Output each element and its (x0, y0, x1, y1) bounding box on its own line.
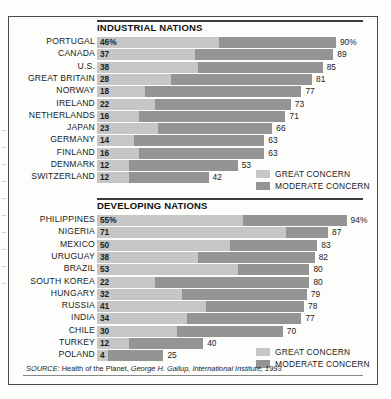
stacked-bar: 32 (97, 289, 307, 300)
table-row: JAPAN2366 (9, 123, 377, 134)
country-label: URUGUAY (0, 251, 95, 261)
bar-segment-great-concern (97, 264, 238, 275)
stacked-bar: 14 (97, 135, 264, 146)
bar-total-value: 90% (340, 37, 357, 48)
country-label: GREAT BRITAIN (0, 73, 95, 83)
bar-segment-moderate-concern (158, 123, 272, 134)
bar-start-value: 38 (100, 63, 109, 72)
country-label: IRELAND (0, 98, 95, 108)
developing-panel-title: DEVELOPING NATIONS (97, 200, 208, 211)
bar-total-value: 78 (308, 301, 317, 312)
bar-segment-moderate-concern (195, 49, 333, 60)
bar-segment-great-concern (97, 240, 230, 251)
bar-start-value: 71 (100, 228, 109, 237)
country-label: DENMARK (0, 159, 95, 169)
bar-total-value: 80 (313, 277, 322, 288)
stacked-bar: 18 (97, 86, 301, 97)
country-label: MEXICO (0, 239, 95, 249)
stacked-bar: 55% (97, 215, 347, 226)
bar-total-value: 89 (337, 49, 346, 60)
bar-total-value: 25 (167, 350, 176, 361)
bar-segment-great-concern (97, 289, 182, 300)
stacked-bar: 41 (97, 301, 304, 312)
developing-nations-panel: PHILIPPINES55%94%NIGERIA7187MEXICO5083UR… (9, 215, 377, 365)
bar-start-value: 30 (100, 327, 109, 336)
stacked-bar: 37 (97, 49, 333, 60)
stacked-bar: 53 (97, 264, 309, 275)
bar-total-value: 66 (276, 123, 285, 134)
stacked-bar: 12 (97, 338, 203, 349)
bar-total-value: 40 (207, 338, 216, 349)
bar-segment-moderate-concern (286, 227, 328, 238)
legend-item-great-concern: GREAT CONCERN (256, 346, 370, 358)
bar-segment-moderate-concern (139, 111, 285, 122)
country-label: BRAZIL (0, 263, 95, 273)
legend-label-great-concern: GREAT CONCERN (275, 169, 350, 179)
bar-segment-moderate-concern (155, 99, 290, 110)
bar-total-value: 79 (311, 289, 320, 300)
stacked-bar: 12 (97, 172, 209, 183)
bar-segment-moderate-concern (129, 172, 209, 183)
bar-segment-moderate-concern (129, 338, 203, 349)
country-label: SOUTH KOREA (0, 276, 95, 286)
bar-start-value: 14 (100, 136, 109, 145)
table-row: HUNGARY3279 (9, 289, 377, 300)
bar-total-value: 73 (295, 99, 304, 110)
legend-industrial: GREAT CONCERN MODERATE CONCERN (256, 168, 370, 192)
bar-segment-moderate-concern (206, 301, 304, 312)
table-row: BRAZIL5380 (9, 264, 377, 275)
country-label: PHILIPPINES (0, 214, 95, 224)
bar-segment-great-concern (97, 252, 198, 263)
bar-start-value: 22 (100, 278, 109, 287)
legend-swatch-great-concern (256, 348, 270, 356)
bar-total-value: 81 (316, 74, 325, 85)
table-row: PORTUGAL46%90% (9, 37, 377, 48)
country-label: U.S. (0, 61, 95, 71)
bar-start-value: 12 (100, 161, 109, 170)
stacked-bar: 16 (97, 111, 286, 122)
bar-start-value: 18 (100, 87, 109, 96)
table-row: URUGUAY3882 (9, 252, 377, 263)
table-row: SOUTH KOREA2280 (9, 277, 377, 288)
legend-item-great-concern: GREAT CONCERN (256, 168, 370, 180)
stacked-bar: 4 (97, 350, 163, 361)
legend-label-moderate-concern: MODERATE CONCERN (275, 181, 370, 191)
stacked-bar: 34 (97, 313, 301, 324)
table-row: GREAT BRITAIN2881 (9, 74, 377, 85)
bar-total-value: 87 (332, 227, 341, 238)
bar-start-value: 12 (100, 173, 109, 182)
bar-segment-moderate-concern (171, 74, 312, 85)
stacked-bar: 23 (97, 123, 272, 134)
bar-start-value: 53 (100, 265, 109, 274)
table-row: IRELAND2273 (9, 99, 377, 110)
country-label: GERMANY (0, 134, 95, 144)
country-label: INDIA (0, 312, 95, 322)
bar-segment-moderate-concern (134, 135, 264, 146)
bar-total-value: 53 (242, 160, 251, 171)
bar-segment-moderate-concern (230, 240, 318, 251)
country-label: CANADA (0, 48, 95, 58)
bar-segment-moderate-concern (243, 215, 347, 226)
legend-label-great-concern: GREAT CONCERN (275, 347, 350, 357)
bar-start-value: 41 (100, 302, 109, 311)
source-cite: George H. Gallup, International Institut… (131, 364, 282, 373)
bar-total-value: 63 (268, 135, 277, 146)
country-label: NORWAY (0, 85, 95, 95)
industrial-panel-title: INDUSTRIAL NATIONS (97, 22, 203, 33)
bar-segment-moderate-concern (129, 160, 238, 171)
stacked-bar: 22 (97, 277, 309, 288)
bar-segment-moderate-concern (182, 289, 307, 300)
bar-start-value: 12 (100, 339, 109, 348)
bar-segment-great-concern (97, 301, 206, 312)
bar-start-value: 55% (100, 216, 117, 225)
source-lead: SOURCE: (26, 364, 60, 373)
source-publication: Health of the Planet, (60, 364, 131, 373)
bar-total-value: 77 (305, 86, 314, 97)
stacked-bar: 12 (97, 160, 238, 171)
bar-total-value: 80 (313, 264, 322, 275)
industrial-nations-panel: PORTUGAL46%90%CANADA3789U.S.3885GREAT BR… (9, 37, 377, 187)
bar-total-value: 82 (319, 252, 328, 263)
bar-start-value: 32 (100, 290, 109, 299)
bar-segment-moderate-concern (145, 86, 302, 97)
bar-start-value: 16 (100, 112, 109, 121)
